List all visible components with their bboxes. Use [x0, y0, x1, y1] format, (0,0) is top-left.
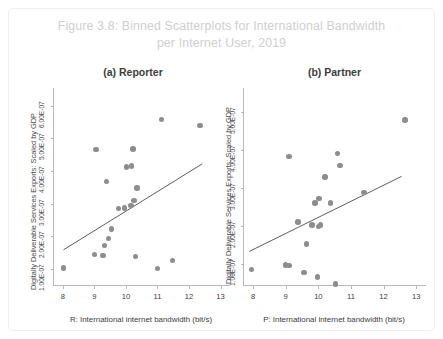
- y-tick-mark: [241, 188, 244, 189]
- x-tick-mark: [126, 285, 127, 289]
- y-tick-mark: [51, 106, 54, 107]
- x-tick-label: 8: [251, 292, 255, 301]
- panel-a-y-axis-label: Digitally Deliverable Services Exports: …: [29, 113, 38, 290]
- scatter-point: [315, 274, 320, 279]
- scatter-point: [337, 163, 342, 168]
- y-tick-label: 6.00E-07: [38, 101, 45, 128]
- y-tick-label: 5.00E-07: [38, 134, 45, 161]
- y-tick-label: 2.00E-07: [38, 231, 45, 258]
- scatter-point: [328, 200, 333, 205]
- scatter-point: [333, 281, 338, 286]
- scatter-point: [93, 147, 98, 152]
- y-tick-label: 4.00E-07: [38, 166, 45, 193]
- panel-b-fit-line: [244, 88, 426, 285]
- x-tick-mark: [94, 285, 95, 289]
- scatter-point: [122, 205, 127, 210]
- y-tick-mark: [51, 171, 54, 172]
- x-tick-label: 9: [92, 292, 96, 301]
- x-tick-label: 11: [154, 292, 162, 301]
- figure-title-line2: per Internet User, 2019: [157, 36, 286, 50]
- y-tick-mark: [241, 226, 244, 227]
- panel-a-x-axis-label: R: International internet bandwidth (bit…: [46, 315, 236, 324]
- scatter-point: [402, 117, 407, 122]
- y-tick-mark: [51, 236, 54, 237]
- y-tick-mark: [241, 150, 244, 151]
- y-tick-mark: [51, 138, 54, 139]
- scatter-point: [312, 200, 317, 205]
- x-tick-mark: [157, 285, 158, 289]
- x-tick-label: 12: [185, 292, 193, 301]
- panel-b-plot-area: 8910111213: [243, 88, 426, 286]
- y-tick-label: 5.00E-07: [229, 107, 236, 134]
- x-tick-label: 10: [122, 292, 130, 301]
- panel-a-title: (a) Reporter: [18, 66, 230, 78]
- panel-partner: (b) Partner Digitally Deliverable Servic…: [215, 66, 440, 331]
- x-tick-mark: [253, 285, 254, 289]
- scatter-point: [61, 265, 66, 270]
- x-tick-label: 8: [61, 292, 65, 301]
- scatter-point: [133, 254, 138, 259]
- scatter-point: [131, 198, 136, 203]
- y-tick-label: 1.00E-07: [38, 264, 45, 291]
- x-tick-label: 10: [314, 292, 322, 301]
- y-tick-label: 3.00E-07: [229, 183, 236, 210]
- figure-title: Figure 3.8: Binned Scatterplots for Inte…: [22, 18, 421, 51]
- scatter-point: [197, 123, 202, 128]
- y-tick-label: 2.00E-07: [229, 221, 236, 248]
- x-tick-label: 11: [347, 292, 355, 301]
- scatter-point: [301, 270, 306, 275]
- scatter-point: [316, 196, 321, 201]
- scatter-point: [92, 252, 97, 257]
- panel-b-x-axis-label: P: International internet bandwidth (bit…: [235, 315, 433, 324]
- x-tick-label: 9: [284, 292, 288, 301]
- panel-a-plot-area: 8910111213: [53, 88, 230, 286]
- x-tick-label: 12: [379, 292, 387, 301]
- scatter-point: [128, 203, 133, 208]
- x-tick-label: 13: [412, 292, 420, 301]
- y-tick-label: 1.00E-07: [229, 259, 236, 286]
- scatter-point: [361, 190, 366, 195]
- x-tick-mark: [286, 285, 287, 289]
- y-tick-mark: [51, 204, 54, 205]
- scatter-point: [100, 253, 105, 258]
- scatter-point: [322, 174, 327, 179]
- x-tick-mark: [416, 285, 417, 289]
- x-tick-mark: [189, 285, 190, 289]
- y-tick-mark: [51, 269, 54, 270]
- x-tick-mark: [63, 285, 64, 289]
- x-tick-mark: [318, 285, 319, 289]
- figure-title-line1: Figure 3.8: Binned Scatterplots for Inte…: [58, 19, 385, 33]
- scatter-point: [129, 163, 134, 168]
- scatter-point: [286, 154, 291, 159]
- y-tick-label: 4.00E-07: [229, 145, 236, 172]
- x-tick-mark: [351, 285, 352, 289]
- scatter-point: [130, 146, 135, 151]
- y-tick-label: 3.00E-07: [38, 199, 45, 226]
- scatter-point: [295, 219, 300, 224]
- panel-a-fit-line: [54, 88, 230, 285]
- x-tick-mark: [384, 285, 385, 289]
- scatter-point: [309, 222, 314, 227]
- panel-b-title: (b) Partner: [215, 66, 440, 78]
- scatter-point: [304, 241, 309, 246]
- panel-reporter: (a) Reporter Digitally Deliverable Servi…: [18, 66, 230, 331]
- figure-container: Figure 3.8: Binned Scatterplots for Inte…: [0, 0, 443, 339]
- y-tick-mark: [241, 264, 244, 265]
- y-tick-mark: [241, 112, 244, 113]
- scatter-point: [286, 263, 291, 268]
- scatter-point: [134, 185, 139, 190]
